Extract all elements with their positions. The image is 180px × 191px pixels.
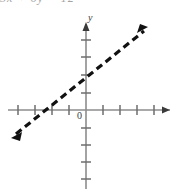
- graph-figure: 5x + 6y = 12: [0, 0, 180, 191]
- y-axis: [83, 22, 90, 189]
- x-axis: [8, 107, 170, 114]
- y-axis-label: y: [88, 12, 92, 23]
- plotted-line: [11, 24, 148, 141]
- coordinate-plane: [0, 0, 180, 191]
- origin-label: 0: [77, 110, 82, 121]
